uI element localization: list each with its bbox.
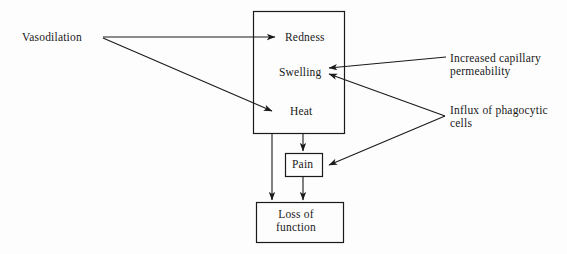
edge-phagocytic-to-swelling xyxy=(329,74,445,116)
loss-of-function-box xyxy=(257,203,344,243)
edge-vasodilation-to-heat xyxy=(103,38,272,111)
inflammation-flow-diagram: Vasodilation Redness Swelling Heat Pain … xyxy=(0,0,567,254)
edge-phagocytic-to-pain xyxy=(329,116,445,165)
pain-box xyxy=(286,154,323,177)
cardinal-signs-box xyxy=(254,12,345,134)
edge-capillary-to-swelling xyxy=(329,57,446,68)
diagram-canvas xyxy=(0,0,567,254)
